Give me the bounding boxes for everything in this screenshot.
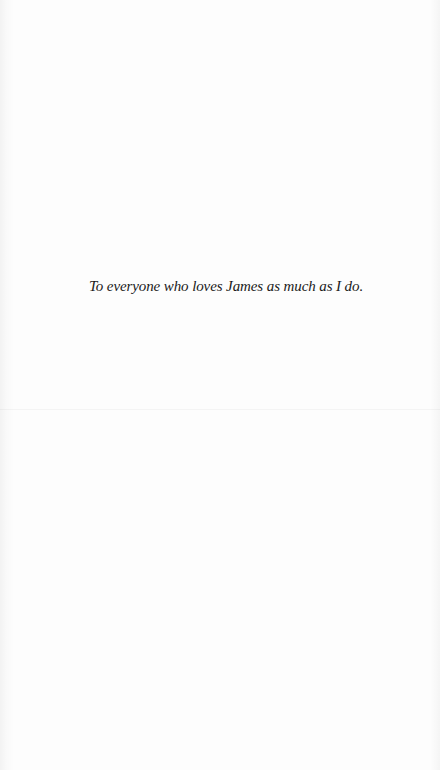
book-page: To everyone who loves James as much as I… (0, 0, 440, 770)
page-fold-line (0, 409, 440, 410)
dedication-text: To everyone who loves James as much as I… (0, 276, 440, 296)
